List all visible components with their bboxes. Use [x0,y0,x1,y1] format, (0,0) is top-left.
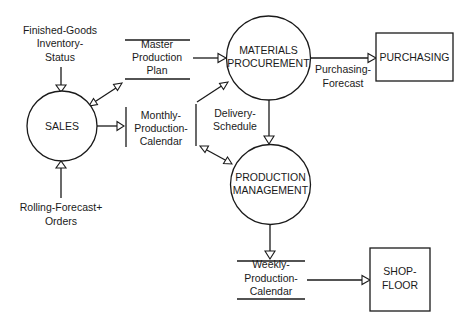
flow-rolling-to-sales [56,161,66,198]
store-weekly-label-3: Calendar [250,285,293,297]
entity-shop-floor[interactable]: SHOP- FLOOR [370,248,430,311]
flow-production-to-weekly [265,225,275,259]
store-weekly-label-1: Weekly- [252,258,290,270]
process-production-management[interactable]: PRODUCTION MANAGEMENT [231,145,311,225]
label-delivery-1: Delivery- [214,107,256,119]
store-weekly-production-calendar[interactable]: Weekly- Production- Calendar [237,258,305,299]
label-purchasing-forecast-2: Forecast [323,77,364,89]
label-purchasing-forecast-1: Purchasing- [315,63,372,75]
label-inventory-3: Status [45,51,75,63]
process-materials-label-1: MATERIALS [239,44,298,56]
process-sales-label: SALES [45,120,79,132]
entity-shopfloor-label-1: SHOP- [383,265,417,277]
entity-shopfloor-label-2: FLOOR [382,279,419,291]
store-weekly-label-2: Production- [244,272,298,284]
store-monthly-label-3: Calendar [140,135,183,147]
store-master-production-plan[interactable]: Master Production Plan [125,38,190,79]
label-purchasing-forecast: Purchasing- Forecast [315,63,372,89]
data-flow-diagram: SALES MATERIALS PROCUREMENT PRODUCTION M… [0,0,473,323]
label-inventory-2: Inventory- [37,37,84,49]
entity-purchasing-label: PURCHASING [379,51,449,63]
store-master-label-3: Plan [146,64,167,76]
flow-materials-to-production [264,100,274,144]
process-materials-procurement[interactable]: MATERIALS PROCUREMENT [227,16,311,100]
store-master-label-2: Production [132,51,182,63]
process-production-label-2: MANAGEMENT [233,184,309,196]
flow-master-plan-to-materials [193,54,226,63]
store-master-label-1: Master [141,38,174,50]
label-inventory-status: Finished-Goods Inventory- Status [23,24,97,63]
label-rolling-forecast: Rolling-Forecast+ Orders [20,201,103,227]
process-sales[interactable]: SALES [27,91,97,161]
label-delivery-2: Schedule [213,120,257,132]
store-monthly-label-2: Production- [134,122,188,134]
flow-materials-to-purchasing [311,54,376,63]
store-monthly-production-calendar[interactable]: Monthly- Production- Calendar [126,104,196,147]
flow-weekly-to-shopfloor [307,276,370,285]
flow-monthly-production [200,146,232,164]
entity-purchasing[interactable]: PURCHASING [376,33,453,81]
label-inventory-1: Finished-Goods [23,24,97,36]
label-rolling-1: Rolling-Forecast+ [20,201,103,213]
label-delivery-schedule: Delivery- Schedule [213,107,257,132]
flow-sales-master-plan [89,83,122,106]
flow-inventory-to-sales [56,67,66,92]
process-production-label-1: PRODUCTION [235,171,306,183]
flow-monthly-to-materials [197,82,228,102]
flow-sales-to-monthly [97,122,124,131]
label-rolling-2: Orders [45,215,77,227]
process-materials-label-2: PROCUREMENT [227,57,310,69]
store-monthly-label-1: Monthly- [141,109,182,121]
